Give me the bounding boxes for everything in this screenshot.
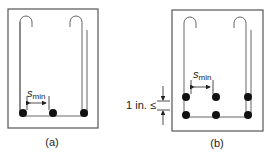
rebar (212, 93, 220, 101)
rebar (80, 109, 88, 117)
beam-section-diagram: smin (a) smin 1 in. ≤ (b) (0, 0, 267, 157)
panel-b: smin 1 in. ≤ (b) (126, 10, 263, 149)
panel-label-b: (b) (210, 137, 223, 149)
rebar (244, 111, 252, 119)
rebar (182, 93, 190, 101)
stirrup-b (184, 17, 251, 117)
panel-a: smin (a) (8, 9, 98, 148)
rebar (182, 111, 190, 119)
rebar (212, 111, 220, 119)
rebar (49, 109, 57, 117)
rebar (19, 109, 27, 117)
spacing-label-a: smin (27, 87, 45, 101)
rebar (244, 93, 252, 101)
spacing-label-b: smin (193, 68, 211, 82)
stirrup-a (20, 16, 87, 116)
panel-label-a: (a) (45, 136, 58, 148)
layer-gap-label: 1 in. ≤ (126, 99, 156, 111)
